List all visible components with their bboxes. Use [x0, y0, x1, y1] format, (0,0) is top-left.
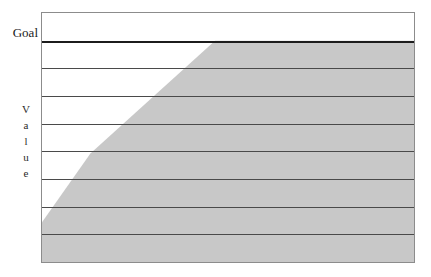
y-axis-label-char: e: [18, 165, 34, 181]
y-axis-label-char: V: [18, 101, 34, 117]
gridline: [42, 179, 414, 180]
gridline: [42, 234, 414, 235]
plot-inner: [42, 13, 414, 262]
y-axis-label-char: u: [18, 149, 34, 165]
area-chart: Goal V a l u e: [0, 0, 431, 277]
gridline: [42, 124, 414, 125]
gridline: [42, 207, 414, 208]
gridline: [42, 151, 414, 152]
y-axis-label: V a l u e: [18, 101, 34, 181]
plot-area: [41, 12, 415, 263]
y-axis-label-char: l: [18, 133, 34, 149]
y-axis-label-char: a: [18, 117, 34, 133]
goal-label-text: Goal: [13, 25, 38, 40]
gridline: [42, 68, 414, 69]
goal-line: [42, 41, 414, 43]
value-area-series: [42, 13, 414, 262]
gridline: [42, 96, 414, 97]
goal-axis-label: Goal: [0, 26, 38, 40]
